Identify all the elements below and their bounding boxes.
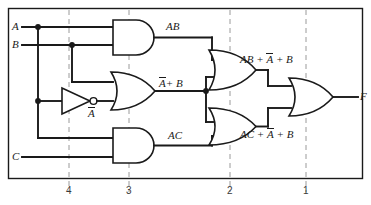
or1-plus: +	[166, 77, 173, 89]
and-gate-ac	[113, 128, 213, 163]
or2-b: B	[286, 53, 293, 65]
overbar-a-or2: A	[266, 53, 273, 65]
level-number-1: 1	[303, 186, 309, 196]
or1-b: B	[176, 77, 183, 89]
not-gate-triangle	[62, 88, 90, 114]
or3-ac: AC	[240, 128, 254, 140]
or3-b: B	[287, 128, 294, 140]
input-label-c: C	[12, 151, 19, 162]
input-label-b: B	[12, 39, 19, 50]
or-gate-output-body	[289, 78, 333, 116]
input-label-a: A	[12, 21, 19, 32]
logic-circuit-diagram: A B C F AB A A+ B AC AB + A + B AC + A +…	[0, 0, 371, 205]
output-label-f: F	[360, 91, 367, 102]
circuit-schematic-canvas	[0, 0, 371, 205]
overbar-a: A	[88, 107, 95, 119]
level-number-3: 3	[126, 186, 132, 196]
or-gate-nota-b-body	[111, 72, 155, 110]
signal-label-ac-plus-nota-plus-b: AC + A + B	[240, 128, 293, 140]
junction-a-lower	[35, 98, 41, 104]
overbar-a-or1: A	[159, 77, 166, 89]
level-number-4: 4	[66, 186, 72, 196]
level-number-2: 2	[227, 186, 233, 196]
not-gate-bubble-icon	[90, 98, 97, 105]
junction-b	[69, 42, 75, 48]
signal-label-ab-plus-nota-plus-b: AB + A + B	[240, 53, 293, 65]
junction-a	[35, 24, 41, 30]
or-gate-output	[289, 78, 358, 116]
and-gate-ac-body	[113, 128, 154, 163]
signal-label-ab: AB	[166, 21, 179, 32]
or2-ab: AB	[240, 53, 253, 65]
signal-label-ac: AC	[168, 130, 182, 141]
signal-label-nota-plus-b: A+ B	[159, 77, 183, 89]
overbar-a-or3: A	[267, 128, 274, 140]
and-gate-ab	[113, 20, 213, 60]
junction-notab	[203, 88, 209, 94]
and-gate-ab-body	[113, 20, 154, 55]
signal-label-not-a: A	[88, 107, 95, 119]
